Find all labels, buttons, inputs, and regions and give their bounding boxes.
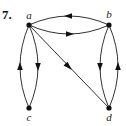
- edge-c-to-a: [17, 25, 29, 108]
- vertex-label-a: a: [26, 9, 32, 21]
- arrowhead-down-icon: [35, 63, 41, 71]
- vertex-label-b: b: [106, 8, 112, 20]
- vertex-a: [26, 22, 31, 27]
- edge-a-to-b: [29, 25, 109, 37]
- vertex-d: [106, 105, 111, 110]
- directed-graph: a b c d: [0, 0, 126, 126]
- arrowhead-down-icon: [97, 63, 103, 71]
- edge-b-to-d: [97, 25, 109, 108]
- arrowhead-up-icon: [17, 62, 23, 70]
- vertex-label-d: d: [106, 111, 112, 123]
- edge-b-to-a: [29, 13, 109, 25]
- arrowhead-up-icon: [115, 62, 121, 70]
- arrowhead-left-icon: [64, 13, 72, 19]
- vertex-c: [26, 105, 31, 110]
- arrowhead-diagonal-icon: [64, 62, 73, 70]
- vertex-b: [106, 22, 111, 27]
- vertex-label-c: c: [27, 111, 32, 123]
- edge-a-to-d: [29, 25, 109, 108]
- arrowhead-right-icon: [66, 31, 74, 37]
- edge-a-to-c: [29, 25, 41, 108]
- edge-d-to-b: [109, 25, 121, 108]
